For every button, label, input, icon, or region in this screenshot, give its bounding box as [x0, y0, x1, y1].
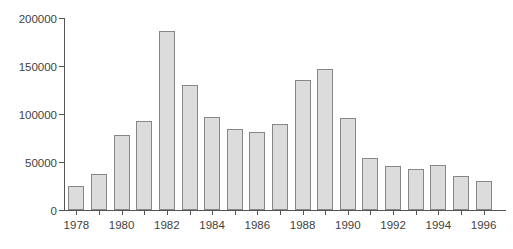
- x-axis-tick: [393, 211, 394, 215]
- y-axis-label: 200000: [8, 13, 57, 25]
- bar-1995: [453, 176, 469, 210]
- x-axis-label: 1978: [56, 219, 96, 231]
- y-axis-label: 150000: [8, 61, 57, 73]
- x-axis-label: 1986: [237, 219, 277, 231]
- bar-1978: [68, 186, 84, 210]
- bar-1981: [136, 121, 152, 210]
- bar-1979: [91, 174, 107, 210]
- x-axis-label: 1994: [418, 219, 458, 231]
- x-axis-label: 1984: [192, 219, 232, 231]
- x-axis-label: 1992: [373, 219, 413, 231]
- x-axis-tick: [99, 211, 100, 215]
- x-axis-tick: [235, 211, 236, 215]
- y-axis-label: 50000: [8, 157, 57, 169]
- x-axis-label: 1988: [283, 219, 323, 231]
- x-axis-tick: [190, 211, 191, 215]
- x-axis-tick: [167, 211, 168, 215]
- x-axis-tick: [484, 211, 485, 215]
- x-axis-tick: [461, 211, 462, 215]
- x-axis-label: 1990: [328, 219, 368, 231]
- bar-1986: [249, 132, 265, 210]
- y-axis-label: 0: [8, 205, 57, 217]
- bar-1990: [340, 118, 356, 210]
- x-axis-tick: [325, 211, 326, 215]
- x-axis-label: 1982: [147, 219, 187, 231]
- x-axis-label: 1980: [102, 219, 142, 231]
- x-axis-tick: [280, 211, 281, 215]
- bar-1982: [159, 31, 175, 210]
- bar-1989: [317, 69, 333, 210]
- bar-chart: 0500001000001500002000001978198019821984…: [0, 0, 513, 249]
- bar-1988: [295, 80, 311, 210]
- bar-1996: [476, 181, 492, 210]
- x-axis-label: 1996: [464, 219, 504, 231]
- x-axis-tick: [122, 211, 123, 215]
- x-axis-tick: [76, 211, 77, 215]
- y-axis-label: 100000: [8, 109, 57, 121]
- bar-1980: [114, 135, 130, 210]
- bar-1993: [408, 169, 424, 210]
- x-axis-tick: [348, 211, 349, 215]
- y-axis-tick: [59, 18, 64, 19]
- y-axis-tick: [59, 114, 64, 115]
- x-axis-line: [64, 210, 507, 211]
- y-axis-tick: [59, 210, 64, 211]
- x-axis-tick: [257, 211, 258, 215]
- y-axis-tick: [59, 162, 64, 163]
- x-axis-tick: [303, 211, 304, 215]
- y-axis-line: [64, 18, 65, 211]
- bar-1991: [362, 158, 378, 210]
- y-axis-tick: [59, 66, 64, 67]
- x-axis-tick: [144, 211, 145, 215]
- bar-1984: [204, 117, 220, 210]
- bar-1985: [227, 129, 243, 210]
- bar-1987: [272, 124, 288, 210]
- x-axis-tick: [370, 211, 371, 215]
- x-axis-tick: [438, 211, 439, 215]
- x-axis-tick: [416, 211, 417, 215]
- bar-1994: [430, 165, 446, 210]
- bar-1992: [385, 166, 401, 210]
- x-axis-tick: [212, 211, 213, 215]
- bar-1983: [182, 85, 198, 210]
